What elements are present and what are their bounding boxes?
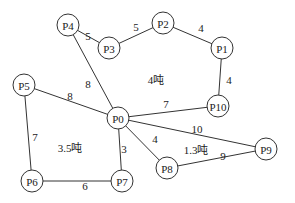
region-label: 4吨 xyxy=(148,74,165,86)
node-p0: P0 xyxy=(107,107,129,129)
edge-weight-label: 4 xyxy=(152,133,158,145)
nodes-layer: P0P1P2P3P4P5P6P7P8P9P10 xyxy=(13,12,277,192)
edge-weight-label: 7 xyxy=(32,131,38,143)
edge-p5-p6 xyxy=(24,85,32,181)
node-label: P10 xyxy=(209,101,227,113)
edge-weight-label: 4 xyxy=(198,22,204,34)
node-p1: P1 xyxy=(211,37,233,59)
region-labels-layer: 4吨3.5吨1.3吨 xyxy=(58,74,209,156)
node-label: P6 xyxy=(26,176,38,188)
edge-p8-p9 xyxy=(167,149,266,168)
node-label: P4 xyxy=(62,20,74,32)
edge-weight-label: 7 xyxy=(163,98,169,110)
node-p6: P6 xyxy=(21,170,43,192)
node-p4: P4 xyxy=(57,14,79,36)
node-label: P9 xyxy=(260,144,272,156)
node-label: P5 xyxy=(18,80,30,92)
node-p9: P9 xyxy=(255,138,277,160)
edge-weight-label: 5 xyxy=(85,30,91,42)
node-label: P2 xyxy=(157,18,169,30)
edge-weights-layer: 55447887634109 xyxy=(32,21,232,192)
edge-weight-label: 9 xyxy=(220,150,226,162)
node-label: P8 xyxy=(161,163,173,175)
node-p7: P7 xyxy=(111,170,133,192)
node-p10: P10 xyxy=(207,95,229,117)
node-p2: P2 xyxy=(152,12,174,34)
graph-diagram: 55447887634109 4吨3.5吨1.3吨 P0P1P2P3P4P5P6… xyxy=(0,0,295,203)
node-p5: P5 xyxy=(13,74,35,96)
node-label: P0 xyxy=(112,113,124,125)
node-label: P3 xyxy=(103,43,115,55)
node-label: P7 xyxy=(116,176,128,188)
node-p3: P3 xyxy=(98,37,120,59)
edge-weight-label: 6 xyxy=(82,180,88,192)
edge-weight-label: 5 xyxy=(133,21,139,33)
edge-weight-label: 4 xyxy=(226,74,232,86)
region-label: 3.5吨 xyxy=(58,142,83,154)
edge-weight-label: 3 xyxy=(121,143,127,155)
edge-weight-label: 8 xyxy=(85,78,91,90)
region-label: 1.3吨 xyxy=(184,144,209,156)
node-label: P1 xyxy=(216,43,228,55)
edge-weight-label: 8 xyxy=(67,90,73,102)
node-p8: P8 xyxy=(156,157,178,179)
edge-weight-label: 10 xyxy=(192,123,204,135)
